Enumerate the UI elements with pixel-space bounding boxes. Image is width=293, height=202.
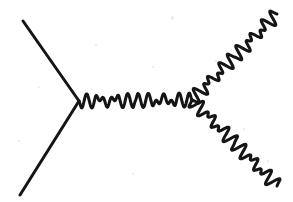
- incoming-fermion-lower-left: [20, 101, 79, 195]
- outgoing-boson-upper-right: [192, 11, 277, 103]
- diagram-line-layer: [20, 11, 280, 195]
- outgoing-boson-lower-right: [189, 100, 280, 186]
- feynman-diagram-canvas: [0, 0, 293, 202]
- feynman-diagram-svg: [0, 0, 293, 202]
- internal-boson-propagator: [79, 93, 192, 108]
- incoming-fermion-upper-left: [23, 21, 79, 101]
